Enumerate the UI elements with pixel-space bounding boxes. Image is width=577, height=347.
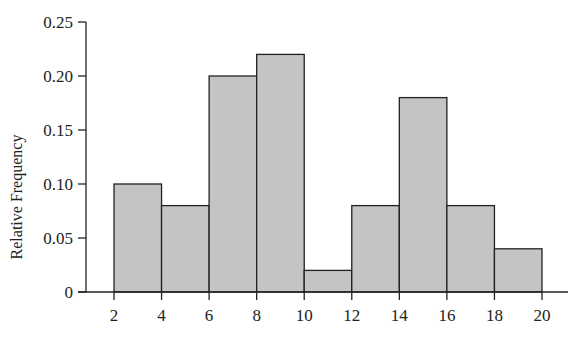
x-tick-label: 18 (486, 306, 503, 325)
y-tick-label: 0.05 (43, 229, 73, 248)
x-tick-label: 14 (391, 306, 409, 325)
x-tick-label: 4 (157, 306, 166, 325)
y-tick-label: 0.15 (43, 121, 73, 140)
histogram-bar (209, 76, 257, 292)
y-tick-label: 0.20 (43, 67, 73, 86)
histogram-bar (494, 249, 542, 292)
histogram-chart: 00.050.100.150.200.25 2468101214161820 R… (0, 0, 577, 347)
x-tick-label: 12 (343, 306, 360, 325)
x-tick-label: 20 (534, 306, 551, 325)
histogram-bar (114, 184, 162, 292)
histogram-bar (304, 270, 352, 292)
x-tick-label: 16 (438, 306, 455, 325)
y-tick-label: 0.25 (43, 13, 73, 32)
x-tick-label: 2 (110, 306, 119, 325)
histogram-bar (447, 206, 495, 292)
y-tick-label: 0.10 (43, 175, 73, 194)
x-tick-label: 10 (296, 306, 313, 325)
bars-group (114, 54, 542, 292)
histogram-bar (352, 206, 400, 292)
y-axis-title: Relative Frequency (8, 135, 26, 260)
y-ticks-group: 00.050.100.150.200.25 (43, 13, 86, 302)
histogram-bar (399, 98, 447, 292)
histogram-bar (162, 206, 210, 292)
y-tick-label: 0 (65, 283, 74, 302)
x-ticks-group: 2468101214161820 (110, 292, 551, 325)
x-tick-label: 6 (205, 306, 214, 325)
histogram-bar (257, 54, 305, 292)
x-tick-label: 8 (252, 306, 261, 325)
